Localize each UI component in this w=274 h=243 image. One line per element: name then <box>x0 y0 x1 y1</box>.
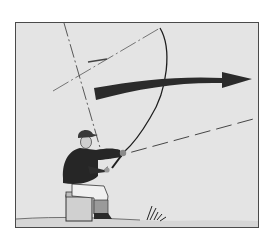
grass-tuft <box>147 206 166 221</box>
cast-direction-arrow <box>94 72 252 100</box>
ground <box>16 217 258 227</box>
cast-illustration <box>0 0 274 243</box>
lower-angle-guide <box>110 118 257 158</box>
